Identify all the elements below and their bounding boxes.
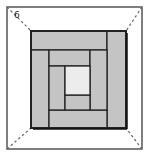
block-number-label: 6	[14, 11, 20, 20]
quilt-block	[31, 31, 126, 128]
right-strip-outer	[107, 31, 126, 128]
diag-bottom-left-line	[7, 128, 31, 149]
bottom-strip-outer	[49, 110, 107, 128]
diag-bottom-right-line	[126, 128, 142, 149]
left-strip-outer	[31, 50, 49, 128]
diag-top-right-line	[126, 7, 142, 31]
top-strip-inner	[49, 50, 90, 66]
center-square	[65, 66, 90, 95]
bottom-strip-inner	[65, 95, 90, 110]
right-strip-inner	[90, 50, 107, 110]
log-cabin-diagram	[0, 0, 149, 155]
top-strip-outer	[31, 31, 107, 50]
left-strip-inner	[49, 66, 65, 110]
